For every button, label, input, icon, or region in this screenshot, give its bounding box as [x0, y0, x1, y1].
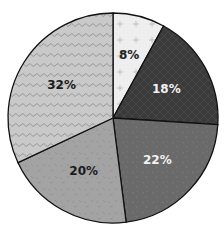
- pie-slice-22-percent: [113, 118, 218, 222]
- pie-chart: 8%18%22%20%32%: [0, 0, 224, 239]
- pie-slices: [8, 13, 218, 223]
- slice-label: 32%: [47, 78, 76, 92]
- slice-label: 18%: [152, 82, 181, 96]
- slice-label: 8%: [119, 48, 139, 62]
- slice-label: 22%: [143, 153, 172, 167]
- slice-label: 20%: [69, 164, 98, 178]
